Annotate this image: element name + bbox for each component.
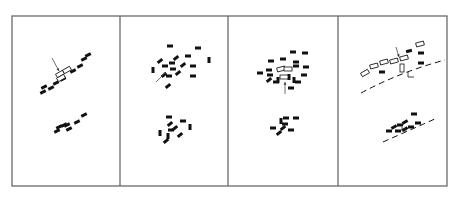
building-filled [293,61,299,64]
building-filled [395,130,401,133]
building-filled [406,49,413,53]
building-outlined [380,59,389,65]
building-filled [190,75,196,78]
building-filled [167,121,174,127]
building-filled [66,126,73,131]
building-filled [267,74,273,77]
building-filled [189,124,192,130]
building-outlined [280,75,288,79]
building-filled [397,124,403,127]
tick-mark [408,72,414,77]
building-outlined [284,67,292,71]
panel-frame [12,16,447,186]
panel-1 [40,52,92,133]
building-filled [411,113,417,116]
building-filled [166,75,172,78]
panels [40,41,445,144]
building-filled [74,119,81,124]
building-filled [162,65,168,68]
building-filled [152,67,155,73]
figure-diagram [0,0,459,197]
building-filled [157,58,164,64]
building-filled [303,66,309,69]
building-filled [81,112,88,117]
building-filled [418,62,424,65]
building-filled [415,122,421,125]
building-outlined [370,63,379,69]
building-filled [195,47,201,50]
building-outlined [400,55,409,61]
building-filled [295,81,301,84]
building-filled [288,87,294,90]
building-filled [185,55,191,58]
building-filled [290,51,296,54]
building-filled [391,124,398,130]
building-filled [48,85,55,90]
building-filled [180,120,186,123]
panel-2 [152,45,211,145]
building-filled [257,72,263,75]
outer-border [12,16,447,186]
building-filled [293,65,299,68]
building-filled [165,83,172,89]
building-filled [282,123,288,126]
panel-3 [257,51,309,137]
building-filled [418,52,424,55]
building-filled [302,52,308,55]
building-filled [41,84,48,89]
building-filled [167,133,170,139]
building-filled [273,81,279,84]
building-filled [177,132,184,138]
building-filled [159,130,162,136]
building-filled [276,130,283,136]
building-outlined [400,64,404,72]
panel-4 [361,41,445,142]
building-filled [208,57,211,63]
building-filled [167,45,173,48]
building-filled [173,55,180,61]
building-outlined [416,41,425,47]
building-filled [293,117,299,120]
building-filled [283,117,289,120]
building-filled [270,127,276,130]
building-filled [166,116,172,119]
building-filled [170,68,176,71]
building-filled [288,129,294,132]
building-filled [386,130,392,133]
building-outlined [390,58,399,64]
building-filled [268,60,274,63]
building-filled [180,62,187,68]
building-filled [266,69,272,72]
building-filled [175,70,182,76]
building-filled [77,63,84,68]
building-filled [190,65,196,68]
building-filled [266,77,273,83]
building-filled [280,125,287,131]
building-filled [379,71,385,74]
building-filled [85,52,92,57]
building-filled [169,62,175,65]
building-filled [40,89,47,94]
building-filled [301,74,307,77]
building-filled [408,126,414,129]
building-filled [280,58,286,61]
building-outlined [361,69,370,76]
arrowhead-icon [284,82,287,85]
building-outlined [63,66,72,73]
